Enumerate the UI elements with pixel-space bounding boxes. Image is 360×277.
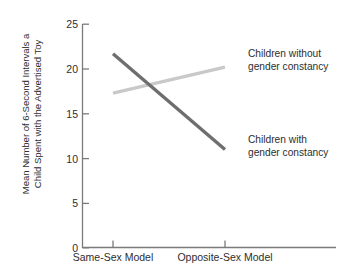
- series-label-children-with-gender-constancy: Children with gender constancy: [248, 133, 328, 160]
- y-axis-label-line-1: Mean Number of 6-Second Intervals a: [20, 34, 33, 194]
- series-label-without-line-2: gender constancy: [248, 60, 328, 73]
- y-tick-label-15: 15: [52, 109, 78, 120]
- y-axis-ticks: [83, 24, 90, 248]
- x-axis-ticks: [113, 241, 225, 248]
- y-tick-label-20: 20: [52, 64, 78, 75]
- series-label-with-line-1: Children with: [248, 133, 328, 146]
- y-axis-label: Mean Number of 6-Second Intervals a Chil…: [14, 0, 50, 234]
- y-tick-label-25: 25: [52, 19, 78, 30]
- y-tick-label-5: 5: [52, 198, 78, 209]
- chart-figure: Mean Number of 6-Second Intervals a Chil…: [0, 0, 360, 277]
- series-label-with-line-2: gender constancy: [248, 146, 328, 159]
- series-line-children-without-gender-constancy: [113, 67, 225, 93]
- x-tick-label-same-sex-model: Same-Sex Model: [63, 252, 163, 263]
- series-label-children-without-gender-constancy: Children without gender constancy: [248, 47, 328, 74]
- x-tick-label-opposite-sex-model: Opposite-Sex Model: [167, 252, 283, 263]
- y-tick-label-10: 10: [52, 154, 78, 165]
- series-line-children-with-gender-constancy: [113, 54, 225, 150]
- series-label-without-line-1: Children without: [248, 47, 328, 60]
- y-axis-label-line-2: Child Spent with the Advertised Toy: [32, 34, 45, 194]
